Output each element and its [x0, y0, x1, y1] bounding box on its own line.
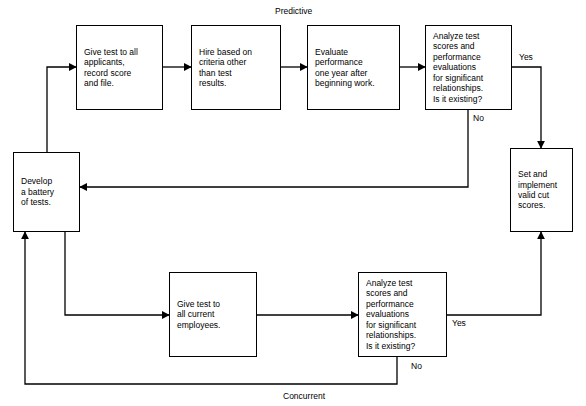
edge-label-no-concurrent: No — [411, 361, 422, 371]
node-give-test-applicants[interactable]: Give test to all applicants, record scor… — [76, 25, 163, 110]
edge-label-yes-predictive: Yes — [519, 52, 533, 62]
edge-develop-to-employees — [65, 232, 169, 315]
edge-label-no-predictive: No — [473, 113, 484, 123]
path-label-predictive: Predictive — [275, 6, 312, 16]
node-evaluate-performance[interactable]: Evaluate performance one year after begi… — [307, 25, 400, 110]
edge-label-yes-concurrent: Yes — [452, 318, 466, 328]
node-set-cut-scores[interactable]: Set and implement valid cut scores. — [510, 148, 573, 232]
node-evaluate-performance-label: Evaluate performance one year after begi… — [315, 47, 375, 89]
node-analyze-concurrent[interactable]: Analyze test scores and performance eval… — [358, 272, 447, 357]
node-give-test-employees-label: Give test to all current employees. — [177, 299, 220, 330]
edge-develop-to-applicants — [47, 67, 76, 152]
path-label-concurrent: Concurrent — [283, 391, 325, 401]
flowchart-canvas: Predictive Concurrent Develop a battery … — [0, 0, 586, 406]
node-analyze-concurrent-label: Analyze test scores and performance eval… — [366, 278, 416, 351]
edge-analyze-yes-to-cutscores — [512, 67, 541, 148]
node-hire-other-criteria[interactable]: Hire based on criteria other than test r… — [191, 25, 281, 110]
node-develop-battery[interactable]: Develop a battery of tests. — [13, 152, 80, 232]
node-give-test-employees[interactable]: Give test to all current employees. — [169, 272, 257, 357]
node-give-test-applicants-label: Give test to all applicants, record scor… — [84, 47, 138, 89]
edge-analyze-concurrent-yes-to-cutscores — [447, 232, 541, 315]
node-analyze-predictive-label: Analyze test scores and performance eval… — [433, 31, 483, 104]
edge-analyze-no-to-develop — [80, 110, 468, 187]
node-develop-battery-label: Develop a battery of tests. — [21, 176, 54, 207]
node-analyze-predictive[interactable]: Analyze test scores and performance eval… — [425, 25, 512, 110]
node-set-cut-scores-label: Set and implement valid cut scores. — [518, 169, 557, 211]
node-hire-other-criteria-label: Hire based on criteria other than test r… — [199, 47, 252, 89]
